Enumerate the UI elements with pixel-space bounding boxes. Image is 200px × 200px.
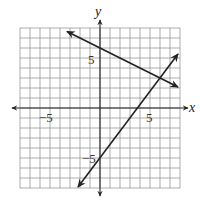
x-axis-label: x — [188, 100, 196, 115]
y-tick-5: 5 — [88, 52, 95, 67]
coordinate-plane: x y −5 5 5 −5 — [0, 0, 200, 200]
line-increasing — [78, 54, 178, 187]
y-axis-label: y — [93, 4, 102, 19]
x-tick-neg5: −5 — [39, 110, 53, 125]
x-tick-5: 5 — [146, 110, 153, 125]
line-decreasing — [67, 32, 178, 88]
y-tick-neg5: −5 — [82, 151, 96, 166]
